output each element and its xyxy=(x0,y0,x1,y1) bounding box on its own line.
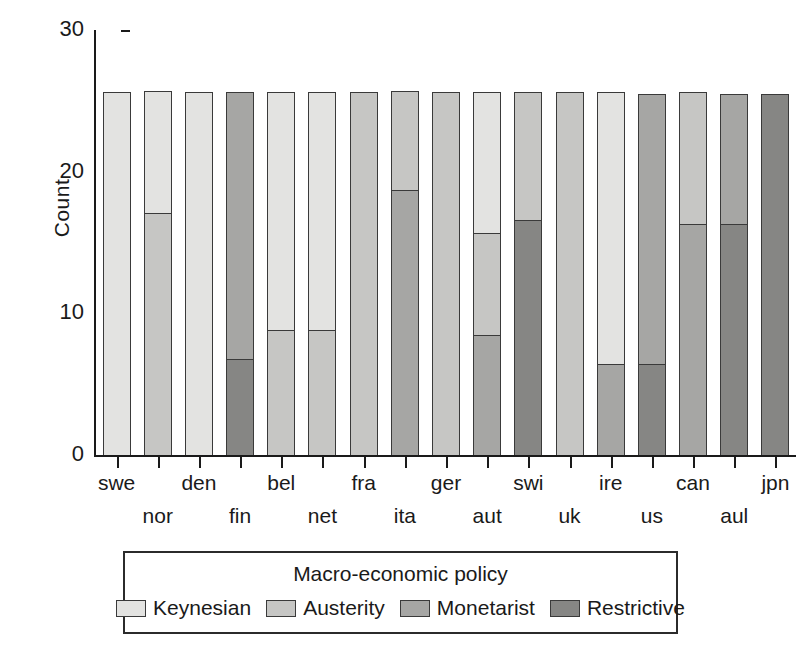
x-axis-label-bel: bel xyxy=(246,471,316,495)
bar-segment-nor-austerity xyxy=(144,213,172,455)
bar-segment-ire-keynesian xyxy=(597,92,625,364)
bar-segment-den-keynesian xyxy=(185,92,213,455)
x-axis-label-aut: aut xyxy=(452,504,522,528)
x-axis-label-fin: fin xyxy=(205,504,275,528)
legend-label-restrictive: Restrictive xyxy=(587,596,685,620)
legend: Macro-economic policy KeynesianAusterity… xyxy=(123,551,678,634)
y-tick-label-20: 20 xyxy=(36,160,84,182)
bar-segment-us-restrictive xyxy=(638,364,666,455)
x-tick-mark-nor xyxy=(158,457,160,468)
legend-title: Macro-economic policy xyxy=(125,562,676,586)
x-tick-mark-fra xyxy=(364,457,366,468)
x-axis-label-net: net xyxy=(287,504,357,528)
bar-segment-ire-monetarist xyxy=(597,364,625,455)
bar-segment-aut-austerity xyxy=(473,233,501,335)
x-tick-mark-den xyxy=(199,457,201,468)
bar-segment-us-monetarist xyxy=(638,94,666,365)
bar-ire[interactable] xyxy=(597,92,625,455)
bar-segment-jpn-restrictive xyxy=(761,94,789,455)
legend-label-austerity: Austerity xyxy=(303,596,385,620)
y-axis-ticks: 0102030 xyxy=(36,0,84,662)
legend-swatch-icon-keynesian xyxy=(116,600,146,617)
bar-segment-swe-keynesian xyxy=(103,92,131,455)
bar-fra[interactable] xyxy=(350,92,378,455)
bar-segment-swi-austerity xyxy=(514,92,542,220)
legend-item-keynesian[interactable]: Keynesian xyxy=(116,596,251,620)
x-axis-label-fra: fra xyxy=(329,471,399,495)
legend-item-restrictive[interactable]: Restrictive xyxy=(550,596,685,620)
x-axis-label-ger: ger xyxy=(411,471,481,495)
bar-jpn[interactable] xyxy=(761,94,789,455)
bar-segment-aul-monetarist xyxy=(720,94,748,224)
x-axis-label-can: can xyxy=(658,471,728,495)
bar-segment-bel-austerity xyxy=(267,330,295,455)
legend-label-monetarist: Monetarist xyxy=(437,596,535,620)
bar-segment-uk-austerity xyxy=(556,92,584,455)
bar-segment-bel-keynesian xyxy=(267,92,295,330)
x-tick-mark-net xyxy=(322,457,324,468)
legend-swatch-icon-monetarist xyxy=(400,600,430,617)
legend-swatch-icon-restrictive xyxy=(550,600,580,617)
x-axis-label-uk: uk xyxy=(535,504,605,528)
bar-segment-can-austerity xyxy=(679,92,707,224)
x-axis-label-jpn: jpn xyxy=(740,471,801,495)
x-tick-mark-aul xyxy=(734,457,736,468)
bar-ger[interactable] xyxy=(432,92,460,455)
x-tick-mark-uk xyxy=(570,457,572,468)
bar-segment-fra-austerity xyxy=(350,92,378,455)
bar-segment-aut-keynesian xyxy=(473,92,501,232)
y-tick-label-0: 0 xyxy=(36,443,84,465)
bar-ita[interactable] xyxy=(391,91,419,455)
bar-swi[interactable] xyxy=(514,92,542,455)
bar-swe[interactable] xyxy=(103,92,131,455)
bar-aul[interactable] xyxy=(720,94,748,455)
plot-area xyxy=(96,30,796,455)
x-tick-mark-ita xyxy=(405,457,407,468)
bar-segment-ita-monetarist xyxy=(391,190,419,455)
bar-segment-net-keynesian xyxy=(308,92,336,330)
x-tick-mark-swe xyxy=(117,457,119,468)
bar-segment-fin-restrictive xyxy=(226,359,254,455)
x-tick-mark-us xyxy=(652,457,654,468)
x-tick-mark-can xyxy=(693,457,695,468)
bar-segment-swi-restrictive xyxy=(514,220,542,455)
x-axis-label-us: us xyxy=(617,504,687,528)
bar-us[interactable] xyxy=(638,94,666,455)
x-axis-label-den: den xyxy=(164,471,234,495)
x-tick-mark-swi xyxy=(528,457,530,468)
bar-can[interactable] xyxy=(679,92,707,455)
x-tick-mark-ire xyxy=(611,457,613,468)
bar-segment-net-austerity xyxy=(308,330,336,455)
stacked-bar-chart: Count 0102030 swenordenfinbelnetfraitage… xyxy=(0,0,801,662)
bar-segment-nor-keynesian xyxy=(144,91,172,213)
x-tick-mark-ger xyxy=(446,457,448,468)
legend-item-monetarist[interactable]: Monetarist xyxy=(400,596,535,620)
legend-item-austerity[interactable]: Austerity xyxy=(266,596,385,620)
bar-uk[interactable] xyxy=(556,92,584,455)
y-tick-label-30: 30 xyxy=(36,18,84,40)
legend-label-keynesian: Keynesian xyxy=(153,596,251,620)
x-tick-mark-bel xyxy=(281,457,283,468)
x-axis-label-aul: aul xyxy=(699,504,769,528)
bar-segment-can-monetarist xyxy=(679,224,707,455)
x-tick-mark-jpn xyxy=(775,457,777,468)
bar-net[interactable] xyxy=(308,92,336,455)
x-axis-label-ire: ire xyxy=(576,471,646,495)
bar-den[interactable] xyxy=(185,92,213,455)
x-axis-label-swi: swi xyxy=(493,471,563,495)
x-axis-label-ita: ita xyxy=(370,504,440,528)
bar-bel[interactable] xyxy=(267,92,295,455)
bar-nor[interactable] xyxy=(144,91,172,455)
bar-aut[interactable] xyxy=(473,92,501,455)
bar-segment-fin-monetarist xyxy=(226,92,254,358)
bar-segment-aul-restrictive xyxy=(720,224,748,455)
legend-swatch-icon-austerity xyxy=(266,600,296,617)
x-tick-mark-aut xyxy=(487,457,489,468)
x-tick-mark-fin xyxy=(240,457,242,468)
bar-segment-aut-monetarist xyxy=(473,335,501,455)
bar-fin[interactable] xyxy=(226,92,254,455)
y-tick-label-10: 10 xyxy=(36,301,84,323)
bar-segment-ger-austerity xyxy=(432,92,460,455)
x-axis-label-swe: swe xyxy=(82,471,152,495)
x-axis-label-nor: nor xyxy=(123,504,193,528)
